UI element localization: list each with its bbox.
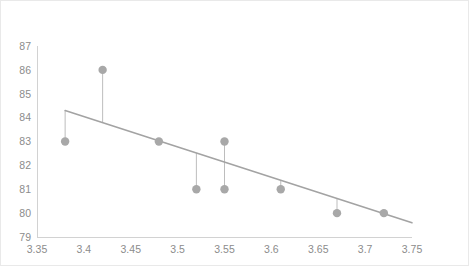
data-point-marker <box>333 209 341 217</box>
data-point-marker <box>220 185 228 193</box>
x-axis-tick-label: 3.65 <box>308 243 329 255</box>
y-axis-tick-label: 81 <box>19 183 31 195</box>
trend-line <box>65 110 412 222</box>
x-axis-tick-label: 3.7 <box>358 243 373 255</box>
data-point-marker <box>155 137 163 145</box>
y-axis-tick-label: 86 <box>19 64 31 76</box>
y-axis-tick-label: 82 <box>19 159 31 171</box>
y-axis-tick-label: 84 <box>19 111 31 123</box>
y-axis-tick-label: 79 <box>19 231 31 243</box>
x-axis-tick-label: 3.75 <box>402 243 423 255</box>
y-axis-tick-label: 83 <box>19 135 31 147</box>
y-axis-tick-label: 85 <box>19 88 31 100</box>
x-axis-tick-label: 3.5 <box>170 243 185 255</box>
x-axis-tick-label: 3.6 <box>264 243 279 255</box>
data-point-marker <box>98 66 106 74</box>
data-point-marker <box>61 137 69 145</box>
y-axis-tick-label: 87 <box>19 40 31 52</box>
data-point-marker <box>220 137 228 145</box>
data-point-marker <box>192 185 200 193</box>
data-point-marker <box>380 209 388 217</box>
x-axis-tick-label: 3.55 <box>214 243 235 255</box>
x-axis-tick-label: 3.45 <box>121 243 142 255</box>
scatter-chart-container: 7980818283848586873.353.43.453.53.553.63… <box>0 0 469 266</box>
x-axis-tick-label: 3.35 <box>27 243 48 255</box>
y-axis-tick-label: 80 <box>19 207 31 219</box>
chart-plot-area: 7980818283848586873.353.43.453.53.553.63… <box>1 1 469 266</box>
x-axis-tick-label: 3.4 <box>77 243 92 255</box>
data-point-marker <box>277 185 285 193</box>
